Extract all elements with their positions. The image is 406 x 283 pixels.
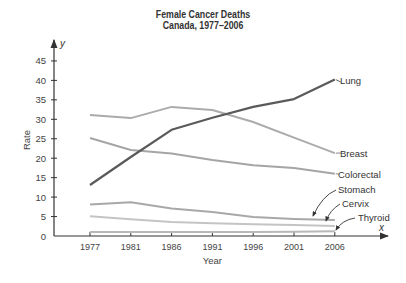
y-tick-label: 15 <box>35 172 46 183</box>
x-tick-label: 1996 <box>243 242 263 252</box>
x-tick-label: 2006 <box>325 242 345 252</box>
label-breast: Breast <box>340 148 368 159</box>
label-thyroid: Thyroid <box>358 212 390 223</box>
leader-stomach <box>313 190 336 216</box>
x-tick-label: 1986 <box>162 242 182 252</box>
label-lung: Lung <box>340 75 361 86</box>
line-chart: Female Cancer Deaths Canada, 1977–2006 y… <box>0 0 406 283</box>
series-line-cervix <box>90 216 335 226</box>
y-tick-label: 0 <box>41 231 46 242</box>
leader-thyroid <box>336 218 355 230</box>
label-stomach: Stomach <box>338 184 376 195</box>
series-line-stomach <box>90 202 335 220</box>
y-tick-label: 25 <box>35 133 46 144</box>
series-line-thyroid <box>90 231 335 232</box>
x-tick-label: 1991 <box>202 242 222 252</box>
y-tick-label: 45 <box>35 55 46 66</box>
y-tick-label: 40 <box>35 75 46 86</box>
y-tick-label: 30 <box>35 114 46 125</box>
x-tick-label: 2001 <box>284 242 304 252</box>
plot-area: yx05101520253035404519771981198619911996… <box>0 0 406 283</box>
leader-cervix <box>326 204 340 221</box>
y-axis-var-label: y <box>59 38 66 49</box>
x-tick-label: 1977 <box>80 242 100 252</box>
label-colorectal: Colorectal <box>338 169 381 180</box>
y-tick-label: 5 <box>41 211 46 222</box>
series-line-breast <box>90 107 335 153</box>
y-tick-label: 20 <box>35 153 46 164</box>
series-line-colorectal <box>90 138 335 174</box>
y-tick-label: 35 <box>35 94 46 105</box>
y-axis-title: Rate <box>21 130 32 150</box>
label-cervix: Cervix <box>342 198 369 209</box>
y-tick-label: 10 <box>35 192 46 203</box>
x-tick-label: 1981 <box>121 242 141 252</box>
x-axis-var-label: x <box>378 222 385 233</box>
x-axis-title: Year <box>203 255 222 266</box>
